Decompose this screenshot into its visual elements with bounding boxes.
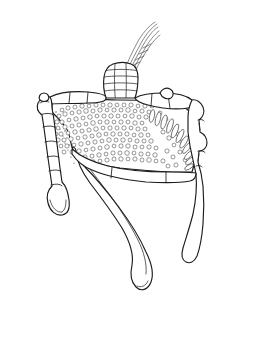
scientific-line-drawing — [0, 0, 254, 342]
antennule-stalk — [104, 63, 138, 99]
figure-container: Scientific line drawing of an arthropod … — [0, 0, 254, 342]
